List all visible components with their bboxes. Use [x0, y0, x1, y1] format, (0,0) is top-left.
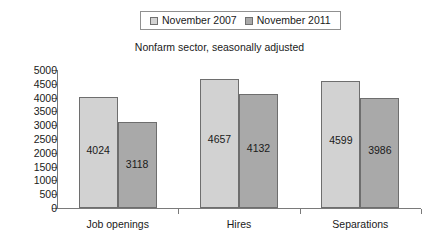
x-axis-tick [178, 209, 179, 214]
x-axis-tick [300, 209, 301, 214]
chart-page: November 2007 November 2011 Nonfarm sect… [0, 0, 439, 243]
y-axis-tick-label: 3500 [23, 106, 57, 116]
y-axis-tick-label: 2000 [23, 148, 57, 158]
x-axis-line [57, 208, 421, 209]
bar-value-label: 3986 [360, 144, 399, 156]
y-axis-tick-label: 4500 [23, 79, 57, 89]
bar-value-label: 4657 [200, 133, 239, 145]
bar-value-label: 3118 [118, 158, 157, 170]
y-axis-tick-label: 2500 [23, 134, 57, 144]
y-axis-tick-label: 1000 [23, 175, 57, 185]
y-axis-tick-label: 3000 [23, 120, 57, 130]
y-axis-tick-label: 500 [23, 189, 57, 199]
x-axis-tick [421, 209, 422, 214]
y-axis-tick-label: 1500 [23, 162, 57, 172]
bar-value-label: 4024 [79, 144, 118, 156]
y-axis-line [57, 70, 58, 209]
bar-value-label: 4132 [239, 142, 278, 154]
bar-value-label: 4599 [321, 134, 360, 146]
y-axis-tick-label: 4000 [23, 93, 57, 103]
y-axis-tick-label: 0 [23, 203, 57, 213]
x-axis-category-label: Separations [300, 218, 421, 230]
y-axis-tick-label: 5000 [23, 65, 57, 75]
x-axis-category-label: Job openings [57, 218, 178, 230]
x-axis-category-label: Hires [178, 218, 299, 230]
plot-area: 0500100015002000250030003500400045005000… [0, 0, 439, 243]
